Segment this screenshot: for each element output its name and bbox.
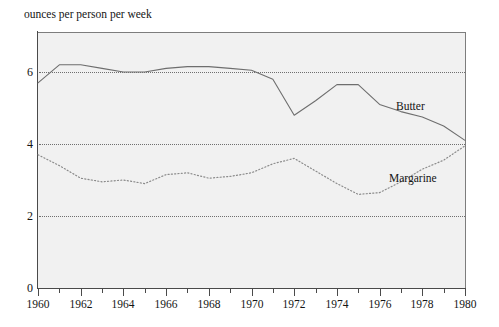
series-label-margarine: Margarine: [389, 172, 437, 185]
series-plot: [0, 0, 499, 327]
series-line-margarine: [38, 146, 465, 195]
chart-figure: ounces per person per week 6 4 2 0 19601…: [0, 0, 499, 327]
series-label-butter: Butter: [396, 100, 425, 113]
